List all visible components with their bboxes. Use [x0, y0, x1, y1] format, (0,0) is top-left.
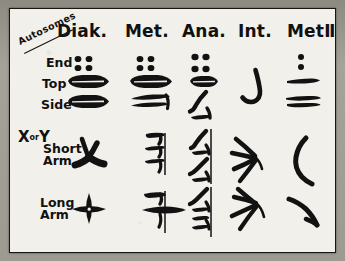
cell-side-met2 — [286, 96, 321, 107]
figure-card: Autosomes Diak. Met. Ana. Int. MetⅡ End … — [9, 8, 336, 253]
cell-top-met2 — [287, 79, 320, 84]
cell-top-ana — [190, 76, 218, 87]
cell-long-met — [142, 191, 186, 233]
cell-short-met2 — [296, 138, 312, 184]
chromosome-figure-layer — [10, 9, 337, 254]
cell-short-ana — [190, 129, 211, 184]
cell-int-j-curve — [243, 70, 261, 102]
cell-short-met — [145, 133, 165, 175]
cell-short-int — [232, 139, 262, 181]
cell-end-met — [137, 56, 155, 71]
cell-side-diak — [68, 95, 109, 108]
cell-top-met — [130, 75, 172, 88]
cell-short-diak — [75, 139, 104, 165]
cell-end-ana — [191, 54, 209, 72]
figure-plate: Autosomes Diak. Met. Ana. Int. MetⅡ End … — [0, 0, 345, 261]
cell-side-met — [131, 95, 170, 109]
cell-long-met2 — [289, 199, 317, 225]
cell-top-diak — [68, 75, 109, 88]
cell-end-met2 — [298, 54, 304, 70]
cell-end-diak — [75, 56, 93, 71]
cell-long-diak — [72, 193, 106, 224]
cell-side-ana — [190, 92, 211, 120]
cell-long-int — [232, 189, 264, 229]
cell-long-ana — [190, 187, 211, 237]
